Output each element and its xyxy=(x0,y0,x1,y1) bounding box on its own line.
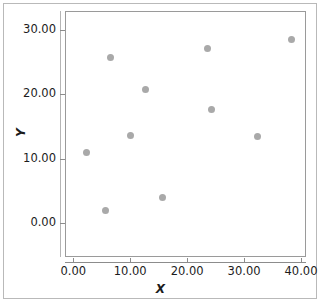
y-axis-line xyxy=(60,11,61,257)
y-axis-tick-label: 30.00 xyxy=(8,24,56,36)
x-axis-line xyxy=(65,262,306,263)
plot-area xyxy=(66,12,305,256)
x-axis-tick-label: 30.00 xyxy=(216,266,272,278)
x-axis-title: X xyxy=(0,282,321,296)
x-axis-tick xyxy=(130,258,131,263)
data-point xyxy=(127,132,134,139)
data-point xyxy=(288,36,295,43)
data-point xyxy=(204,45,211,52)
data-point xyxy=(254,133,261,140)
x-axis-tick xyxy=(73,258,74,263)
x-axis-tick-label: 10.00 xyxy=(102,266,158,278)
x-axis-tick-label: 0.00 xyxy=(45,266,101,278)
data-point xyxy=(102,207,109,214)
x-axis-tick-label: 40.00 xyxy=(273,266,321,278)
x-axis-tick-label: 20.00 xyxy=(159,266,215,278)
y-axis-tick-label: 20.00 xyxy=(8,89,56,101)
y-axis-tick-label: 0.00 xyxy=(8,217,56,229)
y-axis-title: Y xyxy=(14,128,28,137)
data-point xyxy=(83,149,90,156)
x-axis-tick xyxy=(187,258,188,263)
data-point xyxy=(107,54,114,61)
x-axis-tick xyxy=(301,258,302,263)
data-point xyxy=(142,86,149,93)
scatter-plot-figure: 0.0010.0020.0030.00 Y 0.0010.0020.0030.0… xyxy=(0,0,321,303)
y-axis-tick-label: 10.00 xyxy=(8,153,56,165)
plot-frame xyxy=(65,11,306,257)
data-point xyxy=(208,106,215,113)
data-point xyxy=(159,194,166,201)
x-axis-tick xyxy=(244,258,245,263)
